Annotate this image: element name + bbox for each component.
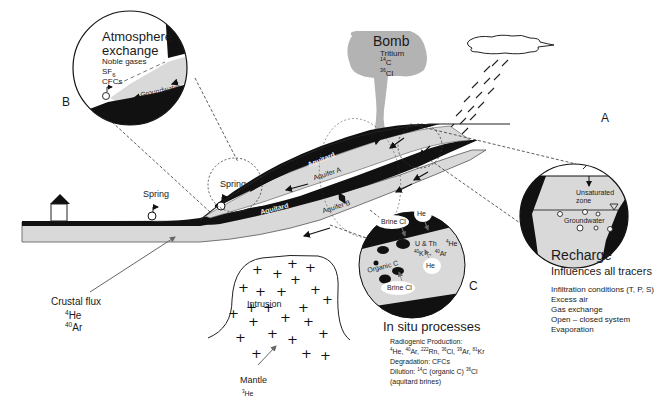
panel-a-circle: [510, 150, 640, 300]
svg-text:+: +: [298, 300, 309, 315]
cfcs-label: CFCs: [102, 78, 122, 87]
svg-text:+: +: [276, 284, 287, 299]
mantle-label: Mantle: [240, 376, 267, 386]
house-icon: [50, 194, 70, 221]
svg-text:+: +: [301, 346, 312, 361]
svg-text:+: +: [287, 256, 298, 271]
svg-text:+: +: [251, 346, 262, 361]
he4-label: 4He: [446, 240, 457, 248]
k-ar-label: 40K → 40Ar: [414, 250, 447, 258]
recharge-item: Excess air: [551, 295, 654, 305]
panel-a-letter: A: [601, 112, 609, 125]
svg-text:+: +: [255, 284, 266, 299]
svg-text:+: +: [280, 310, 291, 325]
spring-label-right: Spring: [220, 180, 246, 190]
brine-cl-bottom: Brine Cl: [387, 284, 412, 292]
recharge-item: Evaporation: [551, 325, 654, 335]
svg-text:+: +: [305, 260, 316, 275]
crustal-he4: 4He: [65, 310, 81, 321]
radiogenic-list: 4He, 40Ar, 222Rn, 36Cl, 39Ar, 81Kr: [390, 347, 485, 357]
crustal-ar40: 40Ar: [65, 322, 82, 333]
panel-c-circle: [350, 206, 480, 318]
svg-text:+: +: [267, 326, 278, 341]
noble-gases-label: Noble gases: [102, 58, 146, 67]
bomb-cl36: 36Cl: [380, 70, 393, 79]
in-situ-title: In situ processes: [383, 320, 481, 334]
mantle-he3: 3He: [242, 390, 253, 398]
svg-text:+: +: [320, 348, 331, 363]
he-top: He: [417, 210, 426, 218]
panel-b-letter: B: [62, 96, 70, 109]
u-th-label: U & Th: [415, 240, 437, 248]
recharge-item: Infiltration conditions (T, P, S): [551, 285, 654, 295]
crustal-flux-label: Crustal flux: [51, 296, 101, 307]
svg-text:+: +: [248, 314, 259, 329]
svg-text:+: +: [322, 292, 333, 307]
svg-text:+: +: [238, 280, 249, 295]
panel-c-letter: C: [469, 280, 478, 293]
recharge-list: Infiltration conditions (T, P, S) Excess…: [551, 285, 654, 335]
svg-text:+: +: [228, 306, 239, 321]
spring-icon-left: [148, 207, 158, 220]
dilution-line: Dilution: 14C (organic C) 36Cl: [390, 367, 485, 377]
in-situ-details: Radiogenic Production: 4He, 40Ar, 222Rn,…: [390, 337, 485, 387]
brine-cl-top: Brine Cl: [381, 218, 406, 226]
spring-label-left: Spring: [143, 190, 169, 200]
unsaturated-zone-label: Unsaturated zone: [576, 189, 614, 204]
recharge-item: Open – closed system: [551, 315, 654, 325]
svg-text:+: +: [290, 272, 301, 287]
recharge-title: Recharge: [551, 248, 612, 263]
svg-text:+: +: [318, 326, 329, 341]
svg-text:+: +: [310, 282, 321, 297]
recharge-subtitle: Influences all tracers: [551, 265, 652, 277]
rain-cloud-icon: [467, 35, 554, 54]
he-bottom: He: [426, 262, 435, 270]
intrusion-label: Intrusion: [247, 300, 282, 310]
svg-text:+: +: [272, 266, 283, 281]
crustal-flux-arrow: [90, 237, 175, 292]
bomb-title: Bomb: [373, 34, 410, 49]
svg-text:+: +: [235, 330, 246, 345]
recharge-item: Gas exchange: [551, 305, 654, 315]
svg-text:+: +: [287, 332, 298, 347]
panel-a-groundwater-label: Groundwater: [564, 217, 604, 225]
svg-text:+: +: [303, 314, 314, 329]
atmosphere-exchange-title: Atmosphere exchange: [102, 30, 172, 59]
svg-text:+: +: [252, 262, 263, 277]
